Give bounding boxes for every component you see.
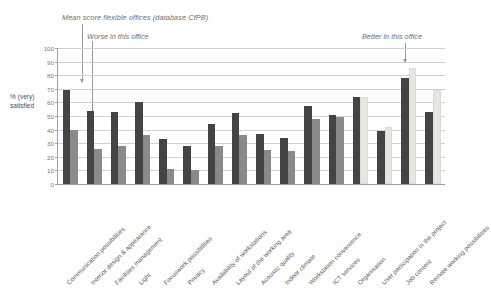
bar-groups — [58, 48, 445, 184]
y-axis-tick-label: 70 — [47, 85, 54, 92]
bar-group — [397, 48, 421, 184]
bar-group — [179, 48, 203, 184]
bar — [304, 106, 312, 184]
bar-group — [276, 48, 300, 184]
bar-group — [155, 48, 179, 184]
bar — [135, 102, 143, 184]
bar — [183, 146, 191, 184]
bar-group — [348, 48, 372, 184]
bar — [409, 68, 417, 184]
bar — [208, 124, 216, 184]
bar — [377, 131, 385, 184]
bar-group — [131, 48, 155, 184]
y-axis-tick-label: 80 — [47, 72, 54, 79]
bar — [239, 135, 247, 184]
y-axis-tick-label: 30 — [47, 140, 54, 147]
annotation-better-label: Better in this office — [362, 32, 422, 41]
bar — [167, 169, 175, 184]
bar — [215, 146, 223, 184]
bar — [159, 139, 167, 184]
y-axis-tick-label: 50 — [47, 113, 54, 120]
bar — [401, 78, 409, 184]
bar — [63, 90, 71, 184]
bar-group — [203, 48, 227, 184]
x-axis-category-labels: Communication possibilitiesInterior desi… — [57, 186, 445, 286]
bar — [360, 97, 368, 184]
bar — [385, 127, 393, 184]
bar — [329, 115, 337, 184]
bar — [87, 111, 95, 184]
bar-group — [372, 48, 396, 184]
annotation-worse-label: Worse in this office — [87, 32, 149, 41]
bar — [280, 138, 288, 184]
bar — [425, 112, 433, 184]
y-axis-tick-label: 10 — [47, 167, 54, 174]
bar-group — [421, 48, 445, 184]
bar — [256, 134, 264, 184]
y-axis-tick-label: 0 — [51, 181, 54, 188]
plot-area: 0102030405060708090100 — [57, 48, 445, 185]
y-axis-tick-label: 20 — [47, 153, 54, 160]
bar — [232, 113, 240, 184]
chart-title: Mean score flexible offices (database Cf… — [62, 13, 208, 22]
bar-group — [227, 48, 251, 184]
bar — [94, 149, 102, 184]
x-axis-line — [57, 184, 445, 185]
bar — [353, 97, 361, 184]
x-axis-category-label: Light — [137, 271, 152, 286]
bar — [336, 117, 344, 184]
bar — [264, 150, 272, 184]
bar-group — [58, 48, 82, 184]
bar — [433, 90, 441, 184]
y-axis-tick-label: 60 — [47, 99, 54, 106]
bar-group — [300, 48, 324, 184]
y-axis-tick-label: 40 — [47, 126, 54, 133]
bar — [118, 146, 126, 184]
y-axis-tick-label: 100 — [44, 45, 54, 52]
bar — [111, 112, 119, 184]
bar-group — [106, 48, 130, 184]
bar — [312, 119, 320, 184]
bar — [288, 151, 296, 184]
bar — [191, 170, 199, 184]
bar — [143, 135, 151, 184]
bar-group — [82, 48, 106, 184]
y-axis-tick-label: 90 — [47, 58, 54, 65]
bar-group — [324, 48, 348, 184]
x-axis-category-label: Privacy — [186, 266, 206, 286]
bar-group — [252, 48, 276, 184]
bar — [70, 130, 78, 184]
